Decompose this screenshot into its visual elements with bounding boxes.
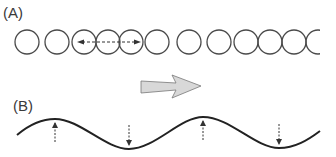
particle: [45, 30, 69, 54]
particle: [207, 30, 231, 54]
particle-row: [15, 30, 330, 54]
particle: [258, 30, 282, 54]
particle: [15, 30, 39, 54]
wave-diagram: [0, 0, 336, 157]
particle: [282, 30, 306, 54]
propagation-arrow-icon: [141, 75, 201, 98]
particle: [145, 30, 169, 54]
particle: [177, 30, 201, 54]
longitudinal-displacement-arrow-icon: [77, 40, 141, 45]
particle: [234, 30, 258, 54]
transverse-wave: [17, 117, 320, 149]
